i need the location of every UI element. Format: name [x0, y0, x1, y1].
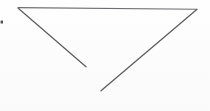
drawing-canvas [0, 0, 210, 111]
top-edge-line [18, 8, 197, 10]
right-diagonal-line [101, 9, 197, 90]
scan-artifacts [1, 20, 3, 23]
triangle-strokes [18, 8, 197, 91]
open-triangle-figure [0, 0, 210, 111]
left-edge-speck-mark [1, 20, 3, 23]
left-diagonal-line [18, 8, 86, 67]
